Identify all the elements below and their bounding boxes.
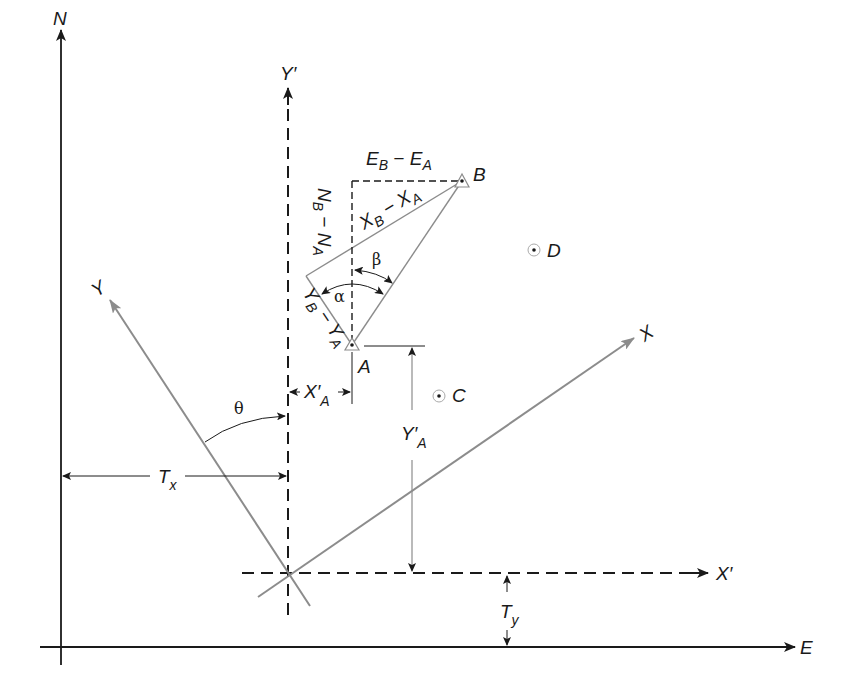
point-a-label: A (357, 356, 371, 377)
rotated-x-axis-label: X (634, 320, 658, 346)
eb-minus-ea-label: EB − EA (366, 148, 432, 173)
y-prime-axis-label: Y′ (280, 63, 298, 84)
point-a (345, 338, 359, 350)
alpha-label: α (334, 287, 345, 306)
point-c-label: C (452, 385, 466, 406)
ty-label: Ty (500, 601, 520, 628)
point-d (528, 244, 540, 256)
rotated-y-axis (110, 300, 310, 606)
y-prime-a-dimension (364, 346, 425, 571)
x-prime-axis-label: X′ (715, 563, 734, 584)
beta-arc (355, 270, 392, 283)
coordinate-diagram: N E Y′ X′ X Y A B C (0, 0, 850, 687)
tx-label: Tx (158, 466, 178, 493)
beta-label: β (372, 250, 381, 269)
point-b-label: B (473, 164, 486, 185)
theta-arc (205, 416, 285, 442)
y-prime-a-label: Y′A (401, 423, 427, 451)
x-prime-a-label: X′A (303, 381, 330, 409)
north-axis-label: N (53, 8, 67, 29)
point-c (433, 390, 445, 402)
rotated-y-axis-label: Y (87, 276, 110, 301)
nb-minus-na-label: NB − NA (310, 188, 335, 256)
point-d-label: D (547, 240, 561, 261)
rotated-x-axis (258, 338, 634, 597)
theta-label: θ (234, 399, 244, 418)
east-axis-label: E (800, 637, 813, 658)
